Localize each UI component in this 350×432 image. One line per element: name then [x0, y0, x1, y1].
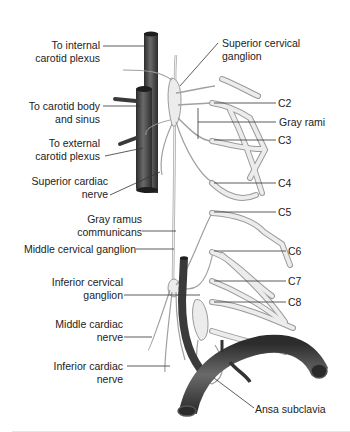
sympathetic-trunk-diagram	[0, 0, 350, 432]
label-middle-cardiac-nerve: Middle cardiac nerve	[55, 318, 123, 343]
label-superior-cervical-ganglion: Superior cervical ganglion	[222, 37, 300, 62]
label-line: To internal	[35, 39, 100, 52]
label-line: ganglion	[222, 50, 300, 63]
label-line: To external	[35, 137, 100, 150]
label-line: C6	[288, 245, 301, 258]
common-carotid-artery	[115, 86, 158, 193]
label-line: C2	[278, 97, 291, 110]
label-line: and sinus	[29, 113, 100, 126]
label-line: nerve	[54, 373, 123, 386]
label-to-external-carotid-plexus: To external carotid plexus	[35, 137, 100, 162]
label-ansa-subclavia: Ansa subclavia	[255, 403, 326, 416]
label-line: nerve	[32, 188, 108, 201]
label-line: Gray rami	[279, 116, 325, 129]
label-line: C8	[288, 296, 301, 309]
label-line: carotid plexus	[35, 150, 100, 163]
label-line: Superior cervical	[222, 37, 300, 50]
label-line: Middle cervical ganglion	[24, 243, 136, 256]
label-c7: C7	[288, 275, 301, 288]
label-c6: C6	[288, 245, 301, 258]
label-line: Superior cardiac	[32, 175, 108, 188]
label-c3: C3	[278, 134, 291, 147]
label-line: carotid plexus	[35, 52, 100, 65]
label-c4: C4	[278, 177, 291, 190]
label-line: nerve	[55, 331, 123, 344]
label-superior-cardiac-nerve: Superior cardiac nerve	[32, 175, 108, 200]
label-gray-ramus-communicans: Gray ramus communicans	[77, 213, 142, 238]
label-line: To carotid body	[29, 100, 100, 113]
label-c5: C5	[278, 206, 291, 219]
label-line: C3	[278, 134, 291, 147]
label-to-internal-carotid-plexus: To internal carotid plexus	[35, 39, 100, 64]
label-c2: C2	[278, 97, 291, 110]
label-middle-cervical-ganglion: Middle cervical ganglion	[24, 243, 136, 256]
label-line: C7	[288, 275, 301, 288]
label-inferior-cardiac-nerve: Inferior cardiac nerve	[54, 360, 123, 385]
label-line: ganglion	[52, 289, 123, 302]
label-line: C4	[278, 177, 291, 190]
label-line: Inferior cardiac	[54, 360, 123, 373]
label-line: communicans	[77, 226, 142, 239]
label-gray-rami: Gray rami	[279, 116, 325, 129]
label-inferior-cervical-ganglion: Inferior cervical ganglion	[52, 276, 123, 301]
label-line: Gray ramus	[77, 213, 142, 226]
label-line: Inferior cervical	[52, 276, 123, 289]
label-c8: C8	[288, 296, 301, 309]
label-line: C5	[278, 206, 291, 219]
label-line: Middle cardiac	[55, 318, 123, 331]
label-to-carotid-body-and-sinus: To carotid body and sinus	[29, 100, 100, 125]
label-line: Ansa subclavia	[255, 403, 326, 416]
